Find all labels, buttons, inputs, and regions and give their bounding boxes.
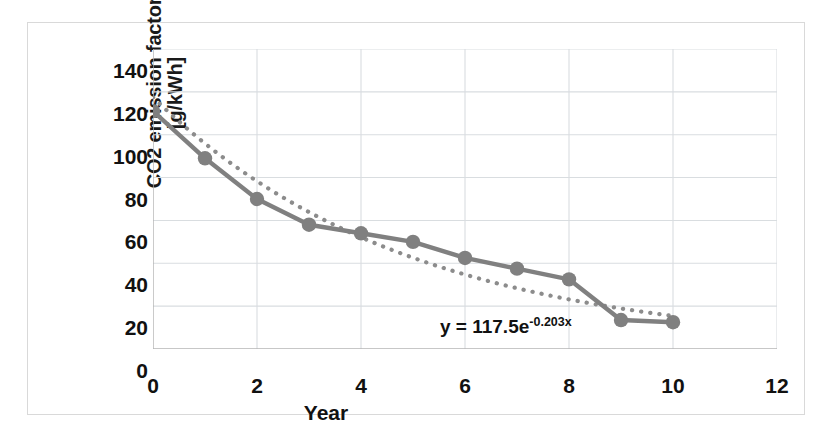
plot-area: y = 117.5e-0.203x [153, 49, 777, 349]
x-tick-label: 12 [747, 375, 807, 396]
chart-figure: CO2 emission factor [g/kWh] 020406080100… [27, 22, 805, 415]
data-point-marker [458, 251, 472, 265]
data-point-markers [153, 104, 680, 329]
y-axis-tick-labels: 020406080100120140 [86, 44, 148, 374]
data-series-line [153, 111, 673, 322]
x-tick-label: 2 [227, 375, 287, 396]
data-point-marker [510, 261, 524, 275]
data-point-marker [302, 218, 316, 232]
data-point-marker [198, 151, 212, 165]
data-point-marker [614, 313, 628, 327]
data-point-marker [562, 272, 576, 286]
y-tick-label: 100 [86, 145, 148, 166]
equation-base: y = 117.5e [440, 316, 529, 337]
trendline-equation-label: y = 117.5e-0.203x [440, 315, 572, 338]
x-tick-label: 0 [123, 375, 183, 396]
data-point-marker [354, 226, 368, 240]
x-tick-label: 4 [331, 375, 391, 396]
x-axis-title: Year [28, 401, 806, 425]
trendline-series [153, 97, 673, 316]
data-point-marker [666, 315, 680, 329]
x-tick-label: 8 [539, 375, 599, 396]
x-axis-title-text: Year [304, 401, 348, 425]
y-tick-label: 40 [86, 274, 148, 295]
x-tick-label: 10 [643, 375, 703, 396]
y-tick-label: 80 [86, 188, 148, 209]
x-tick-label: 6 [435, 375, 495, 396]
equation-exponent: -0.203x [529, 315, 571, 329]
y-tick-label: 20 [86, 317, 148, 338]
data-point-marker [406, 235, 420, 249]
y-tick-label: 120 [86, 102, 148, 123]
chart-canvas [153, 49, 777, 349]
y-tick-label: 60 [86, 231, 148, 252]
vertical-gridlines [257, 49, 777, 349]
y-tick-label: 140 [86, 60, 148, 81]
data-point-marker [250, 192, 264, 206]
